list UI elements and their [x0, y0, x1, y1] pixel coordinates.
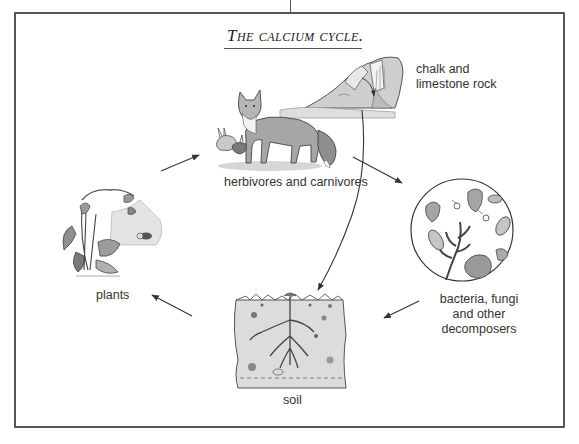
label-line: chalk and	[416, 62, 497, 77]
soil-cross-section-illustration	[234, 293, 346, 388]
microscope-circle-illustration	[411, 179, 513, 281]
label-plants: plants	[96, 288, 129, 303]
arrow-soil-to-plants	[152, 295, 192, 316]
plant-illustration	[63, 190, 162, 276]
label-line: bacteria, fungi	[424, 292, 534, 307]
arrow-plants-to-herbivores	[161, 155, 199, 171]
label-line: limestone rock	[416, 77, 497, 92]
rock-waterfall-illustration	[280, 57, 403, 118]
label-line: and other	[424, 307, 534, 322]
label-decomposers: bacteria, fungi and other decomposers	[424, 292, 534, 337]
label-chalk-limestone: chalk and limestone rock	[416, 62, 497, 92]
label-line: decomposers	[424, 322, 534, 337]
arrow-decomposers-to-soil	[384, 301, 419, 318]
label-herbivores-carnivores: herbivores and carnivores	[224, 175, 368, 190]
label-soil: soil	[283, 393, 302, 408]
